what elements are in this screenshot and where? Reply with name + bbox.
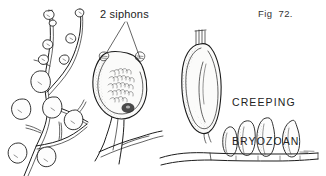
siphons-label: 2 siphons: [100, 8, 149, 20]
zooid-stalk: [95, 117, 112, 161]
upright-ovoid-zooid: [182, 30, 221, 143]
bryozoan-figure-illustration: .ln{fill:none;stroke:#1d1d1d;stroke-widt…: [0, 0, 326, 176]
figure-number-label: Fig 72.: [258, 8, 293, 19]
large-zooid-with-siphons: [93, 22, 163, 164]
common-name-line-1: CREEPING: [232, 96, 300, 109]
common-name-line-2: BRYOZOAN: [232, 135, 300, 148]
siphon-leader-line-right: [127, 22, 140, 58]
bud-group-upper: [38, 9, 83, 64]
bud-group-lower: [8, 71, 83, 167]
branching-stolon-colony: [8, 9, 88, 176]
common-name-label: CREEPING BRYOZOAN: [232, 70, 300, 174]
